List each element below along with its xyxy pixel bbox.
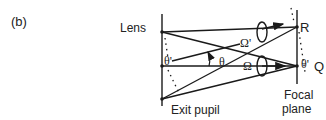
- dotted-line-lower-left: [168, 70, 180, 95]
- ray-bottom-to-Q: [162, 66, 297, 99]
- omega-label: Ω: [243, 60, 252, 72]
- chief-ray-to-R: [172, 44, 240, 61]
- focal-plane-label-line1: Focal: [284, 89, 313, 101]
- omega-prime-ellipse: [257, 22, 267, 42]
- point-R-dot: [295, 25, 299, 29]
- dotted-line-upper-right: [291, 8, 294, 22]
- omega-prime-label: Ω': [240, 37, 251, 49]
- theta-prime-right-label: θ': [301, 58, 309, 70]
- point-Q-label: Q: [314, 60, 324, 73]
- ray-diagram-svg: [0, 0, 326, 120]
- theta-prime-left-label: θ': [164, 55, 172, 67]
- theta-label: θ: [219, 56, 225, 68]
- optics-diagram: (b) Lens Exit pupil Focal plane R Q Ω' Ω…: [0, 0, 326, 120]
- lens-bottom-point: [160, 97, 164, 101]
- lens-top-point: [160, 30, 164, 34]
- point-R-label: R: [300, 21, 309, 34]
- theta-angle-arrow: [208, 52, 210, 66]
- ray-top-to-R: [162, 27, 297, 32]
- lens-label: Lens: [120, 22, 146, 34]
- point-Q-dot: [295, 64, 299, 68]
- exit-pupil-label: Exit pupil: [171, 104, 220, 116]
- focal-plane-label-line2: plane: [282, 103, 311, 115]
- panel-label: (b): [11, 15, 27, 28]
